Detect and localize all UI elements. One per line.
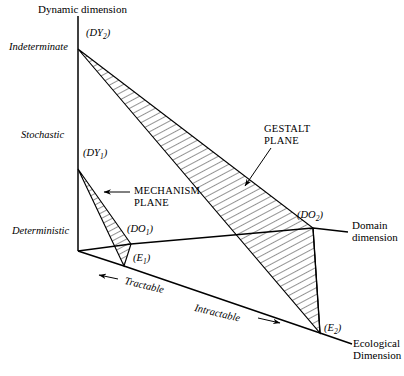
gestalt-plane-label-line1: GESTALT <box>264 123 310 135</box>
dynamic-tick-indeterminate: Indeterminate <box>9 41 68 53</box>
ecological-dimension-label-line2: Dimension <box>353 349 401 361</box>
gestalt-plane-label-line2: PLANE <box>264 135 310 147</box>
page-title: Dynamic dimension <box>38 3 127 15</box>
figure-canvas: Dynamic dimension Indeterminate Stochast… <box>0 0 404 376</box>
vertex-label-do2: (DO2) <box>297 209 323 223</box>
dynamic-tick-stochastic: Stochastic <box>21 129 64 141</box>
domain-dimension-label-line2: dimension <box>352 231 398 243</box>
ecological-dimension-label: Ecological Dimension <box>353 337 401 362</box>
dynamic-tick-deterministic: Deterministic <box>12 225 69 237</box>
mechanism-plane-label-line1: MECHANISM <box>134 185 200 197</box>
gestalt-leader-line <box>245 148 271 186</box>
ecological-dimension-label-line1: Ecological <box>353 337 401 349</box>
vertex-label-dy2: (DY2) <box>86 27 110 41</box>
diagram-svg <box>0 0 404 376</box>
vertex-label-e2: (E2) <box>324 322 341 336</box>
vertex-label-do1: (DO1) <box>127 223 153 237</box>
vertex-label-dy1: (DY1) <box>83 147 107 161</box>
vertex-sub-e1: 1 <box>143 257 147 266</box>
gestalt-plane-label: GESTALT PLANE <box>264 123 310 147</box>
domain-dimension-label-line1: Domain <box>352 219 398 231</box>
vertex-sub-dy2: 2 <box>103 32 107 41</box>
vertex-sub-dy1: 1 <box>100 152 104 161</box>
vertex-sub-do1: 1 <box>146 228 150 237</box>
vertex-sub-e2: 2 <box>334 327 338 336</box>
domain-dimension-label: Domain dimension <box>352 219 398 244</box>
vertex-base-do1: DO <box>131 223 146 234</box>
mechanism-plane-label: MECHANISM PLANE <box>134 185 200 209</box>
vertex-sub-do2: 2 <box>316 214 320 223</box>
vertex-base-do2: DO <box>301 209 316 220</box>
mechanism-plane-label-line2: PLANE <box>134 197 200 209</box>
vertex-label-e1: (E1) <box>133 252 150 266</box>
vertex-base-dy2: DY <box>90 27 103 38</box>
tractable-arrow-icon <box>99 275 118 279</box>
mechanism-plane-shape <box>78 169 131 266</box>
vertex-base-dy1: DY <box>87 147 100 158</box>
